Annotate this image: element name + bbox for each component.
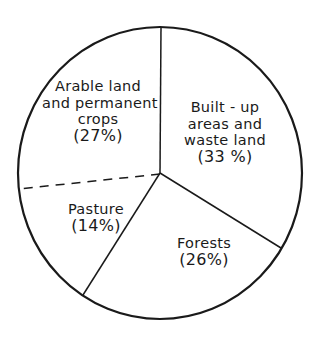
label-arable-line1: Arable land: [42, 78, 154, 95]
label-arable-value: (27%): [42, 128, 154, 145]
pie-chart: [0, 0, 314, 343]
label-builtup-value: (33 %): [172, 149, 278, 166]
label-pasture: Pasture (14%): [56, 201, 136, 234]
label-arable-line2: and permanent: [42, 95, 154, 112]
boundary-arable-builtup: [160, 27, 161, 173]
label-pasture-value: (14%): [56, 218, 136, 235]
label-builtup: Built - up areas and waste land (33 %): [172, 99, 278, 165]
label-builtup-line1: Built - up: [172, 99, 278, 116]
label-forests-value: (26%): [164, 252, 244, 269]
label-forests: Forests (26%): [164, 235, 244, 268]
label-arable: Arable land and permanent crops (27%): [42, 78, 154, 144]
label-builtup-line2: areas and: [172, 116, 278, 133]
